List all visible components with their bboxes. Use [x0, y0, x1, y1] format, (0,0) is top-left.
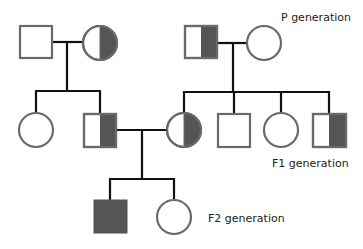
female-unaffected-f1-5	[264, 113, 298, 147]
f1-generation: F1 generation	[19, 113, 349, 170]
pedigree-diagram: P generation F1 generation F2 generatio	[0, 0, 363, 249]
label-f1-generation: F1 generation	[272, 157, 349, 170]
female-carrier-p2	[83, 26, 117, 60]
p-generation: P generation	[20, 11, 351, 60]
male-affected-f2-1	[94, 200, 127, 233]
male-carrier-p3	[185, 26, 217, 58]
female-unaffected-f1-1	[19, 113, 53, 147]
female-unaffected-p4	[247, 26, 281, 60]
female-carrier-f1-3	[167, 113, 201, 147]
label-p-generation: P generation	[281, 11, 351, 24]
female-unaffected-f2-2	[157, 200, 191, 234]
male-unaffected-p1	[20, 26, 52, 58]
male-unaffected-f1-4	[218, 114, 250, 147]
male-carrier-f1-6	[313, 114, 346, 147]
label-f2-generation: F2 generation	[208, 212, 285, 225]
male-carrier-f1-2	[84, 114, 116, 147]
f2-generation: F2 generation	[94, 200, 285, 234]
